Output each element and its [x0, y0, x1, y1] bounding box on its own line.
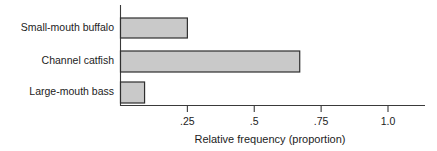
chart-canvas: .25 .5 .75 1.0 Small-mouth buffalo Chann… [0, 0, 437, 151]
x-tick-label-0: .25 [180, 115, 195, 127]
x-tick-label-2: .75 [314, 115, 329, 127]
x-tick-label-3: 1.0 [381, 115, 396, 127]
category-label-large-mouth-bass: Large-mouth bass [29, 85, 114, 97]
bar-small-mouth-buffalo [121, 18, 188, 38]
bar-large-mouth-bass [121, 82, 145, 103]
x-axis-title: Relative frequency (proportion) [194, 133, 345, 145]
category-label-channel-catfish: Channel catfish [42, 54, 115, 66]
bar-chart-figure: .25 .5 .75 1.0 Small-mouth buffalo Chann… [0, 0, 437, 151]
x-tick-label-1: .5 [250, 115, 259, 127]
category-label-small-mouth-buffalo: Small-mouth buffalo [21, 21, 114, 33]
bar-channel-catfish [121, 51, 300, 72]
